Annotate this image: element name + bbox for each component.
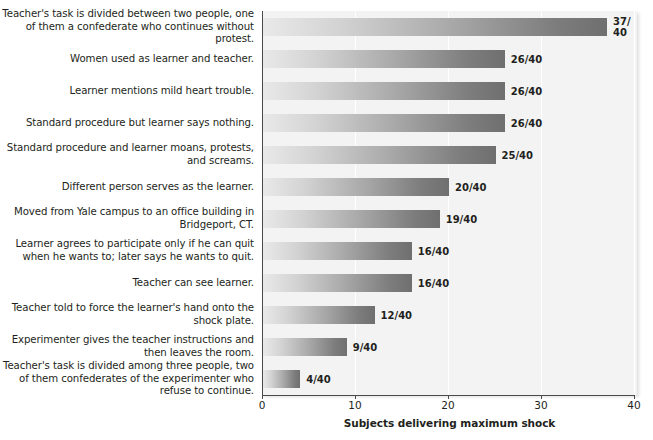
bar-value-label: 26/40: [511, 86, 542, 97]
bar-group: 19/40: [263, 210, 477, 228]
chart-row: Teacher told to force the learner's hand…: [0, 299, 653, 331]
bar-group: 16/40: [263, 242, 449, 260]
bar-group: 4/40: [263, 370, 331, 388]
chart-row: Standard procedure and learner moans, pr…: [0, 139, 653, 171]
bar-value-label: 37/ 40: [613, 16, 631, 38]
bar-value-label: 12/40: [381, 310, 412, 321]
category-label: Teacher's task is divided among three pe…: [0, 360, 254, 398]
bar-value-label: 20/40: [455, 182, 486, 193]
bar-rows: Teacher's task is divided between two pe…: [0, 11, 653, 395]
bar-group: 25/40: [263, 146, 533, 164]
x-tick-label: 0: [242, 399, 282, 411]
chart-row: Teacher's task is divided among three pe…: [0, 363, 653, 395]
bar: [263, 146, 496, 164]
bar: [263, 210, 440, 228]
x-tick-label: 20: [428, 399, 468, 411]
category-label: Experimenter gives the teacher instructi…: [0, 334, 254, 359]
bar-group: 16/40: [263, 274, 449, 292]
category-label: Standard procedure and learner moans, pr…: [0, 142, 254, 167]
bar-group: 12/40: [263, 306, 412, 324]
bar-group: 37/ 40: [263, 18, 631, 36]
bar: [263, 338, 347, 356]
bar-value-label: 16/40: [418, 246, 449, 257]
x-tick-label: 10: [335, 399, 375, 411]
chart-row: Teacher can see learner.16/40: [0, 267, 653, 299]
chart-row: Learner agrees to participate only if he…: [0, 235, 653, 267]
category-label: Teacher told to force the learner's hand…: [0, 302, 254, 327]
bar-value-label: 26/40: [511, 118, 542, 129]
bar-group: 20/40: [263, 178, 486, 196]
bar: [263, 242, 412, 260]
x-axis-title: Subjects delivering maximum shock: [262, 417, 637, 429]
bar-value-label: 4/40: [306, 374, 331, 385]
category-label: Moved from Yale campus to an office buil…: [0, 206, 254, 231]
bar-group: 26/40: [263, 114, 542, 132]
category-label: Standard procedure but learner says noth…: [0, 117, 254, 130]
bar-value-label: 19/40: [446, 214, 477, 225]
bar: [263, 18, 607, 36]
bar-value-label: 26/40: [511, 54, 542, 65]
category-label: Learner mentions mild heart trouble.: [0, 85, 254, 98]
category-label: Teacher can see learner.: [0, 277, 254, 290]
category-label: Women used as learner and teacher.: [0, 53, 254, 66]
bar-group: 26/40: [263, 82, 542, 100]
category-label: Learner agrees to participate only if he…: [0, 238, 254, 263]
bar-group: 26/40: [263, 50, 542, 68]
chart-row: Teacher's task is divided between two pe…: [0, 11, 653, 43]
category-label: Different person serves as the learner.: [0, 181, 254, 194]
bar: [263, 370, 300, 388]
bar: [263, 178, 449, 196]
chart-row: Experimenter gives the teacher instructi…: [0, 331, 653, 363]
chart-row: Moved from Yale campus to an office buil…: [0, 203, 653, 235]
bar-group: 9/40: [263, 338, 377, 356]
bar-value-label: 16/40: [418, 278, 449, 289]
category-label: Teacher's task is divided between two pe…: [0, 8, 254, 46]
bar: [263, 274, 412, 292]
chart-row: Different person serves as the learner.2…: [0, 171, 653, 203]
chart-row: Standard procedure but learner says noth…: [0, 107, 653, 139]
chart-row: Women used as learner and teacher.26/40: [0, 43, 653, 75]
x-tick-label: 40: [614, 399, 653, 411]
bar: [263, 50, 505, 68]
bar: [263, 114, 505, 132]
bar: [263, 306, 375, 324]
x-tick-label: 30: [521, 399, 561, 411]
bar-value-label: 9/40: [353, 342, 378, 353]
bar-value-label: 25/40: [502, 150, 533, 161]
bar-chart-figure: Teacher's task is divided between two pe…: [0, 0, 653, 440]
chart-row: Learner mentions mild heart trouble.26/4…: [0, 75, 653, 107]
bar: [263, 82, 505, 100]
